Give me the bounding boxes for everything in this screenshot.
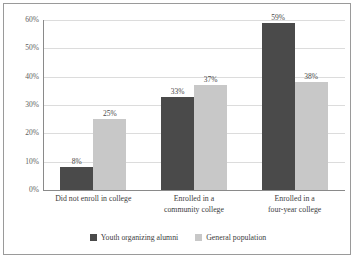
legend-label: Youth organizing alumni	[101, 233, 178, 242]
legend-item[interactable]: General population	[195, 233, 266, 242]
legend-label: General population	[206, 233, 266, 242]
bar[interactable]: 8%	[60, 167, 93, 190]
y-axis-tick-label: 20%	[5, 129, 39, 137]
bar[interactable]: 25%	[93, 119, 126, 190]
bar-value-label: 33%	[171, 87, 185, 96]
category-label-line: Enrolled in a	[244, 194, 345, 205]
y-axis-tick-label: 50%	[5, 44, 39, 52]
bar[interactable]: 38%	[295, 82, 328, 190]
x-axis-category-label: Enrolled in afour-year college	[244, 194, 345, 215]
category-label-line: Did not enroll in college	[43, 194, 144, 205]
legend-swatch-icon	[195, 234, 202, 241]
x-axis-category-label: Did not enroll in college	[43, 194, 144, 205]
bar-value-label: 38%	[304, 72, 318, 81]
y-axis-tick-label: 60%	[5, 16, 39, 24]
bar[interactable]: 59%	[262, 23, 295, 190]
x-axis-category-label: Enrolled in acommunity college	[144, 194, 245, 215]
category-label-line: four-year college	[244, 205, 345, 216]
bar-value-label: 37%	[204, 75, 218, 84]
y-axis-tick-labels: 60%50%40%30%20%10%0%	[3, 20, 39, 190]
bar-group: 33%37%	[161, 20, 227, 190]
bar-value-label: 59%	[271, 13, 285, 22]
category-label-line: Enrolled in a	[144, 194, 245, 205]
bar-value-label: 8%	[72, 157, 82, 166]
bar[interactable]: 37%	[194, 85, 227, 190]
bar-group: 59%38%	[262, 20, 328, 190]
x-axis-category-labels: Did not enroll in collegeEnrolled in aco…	[43, 194, 345, 222]
legend-swatch-icon	[90, 234, 97, 241]
y-axis-tick-label: 0%	[5, 186, 39, 194]
chart-legend: Youth organizing alumniGeneral populatio…	[0, 233, 356, 242]
chart-page: 60%50%40%30%20%10%0% 8%25%33%37%59%38% D…	[0, 0, 356, 260]
y-axis-tick-label: 30%	[5, 101, 39, 109]
category-label-line: community college	[144, 205, 245, 216]
bar-group: 8%25%	[60, 20, 126, 190]
y-axis-tick-label: 10%	[5, 158, 39, 166]
bar-value-label: 25%	[103, 109, 117, 118]
bar-groups: 8%25%33%37%59%38%	[43, 20, 345, 190]
bar[interactable]: 33%	[161, 97, 194, 191]
legend-item[interactable]: Youth organizing alumni	[90, 233, 178, 242]
x-axis-line	[43, 190, 345, 191]
y-axis-tick-label: 40%	[5, 73, 39, 81]
